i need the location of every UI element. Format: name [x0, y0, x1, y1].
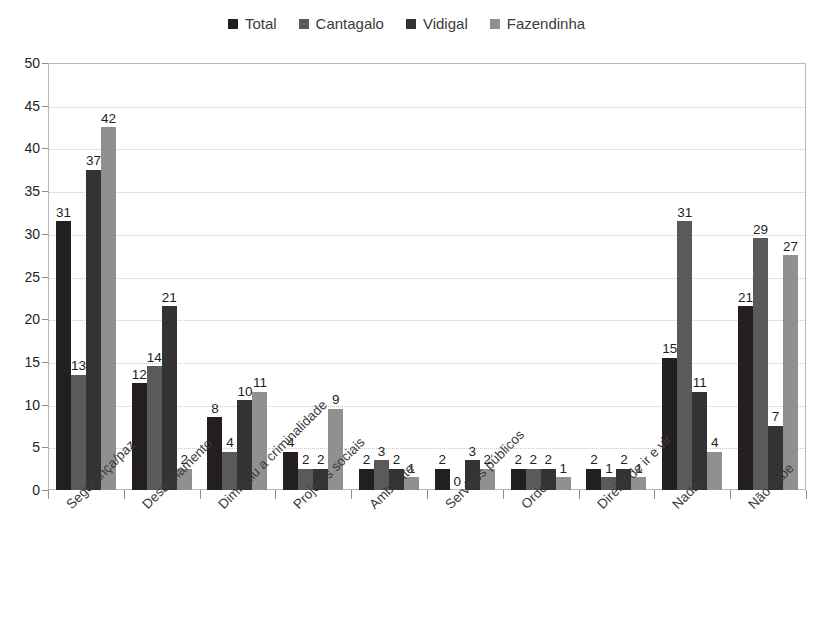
y-tick-label: 30 [6, 227, 40, 241]
bar-value-label: 1 [559, 462, 567, 476]
y-tick-label: 45 [6, 99, 40, 113]
bar-group: 841011 [200, 63, 276, 490]
bar-chart: TotalCantagaloVidigalFazendinha 05101520… [0, 0, 813, 620]
bar-slot: 2 [616, 63, 631, 490]
legend-swatch-icon [299, 19, 309, 29]
bar-slot: 11 [252, 63, 267, 490]
y-tick-label: 25 [6, 270, 40, 284]
bar-value-label: 21 [738, 291, 753, 305]
chart-legend: TotalCantagaloVidigalFazendinha [0, 16, 813, 31]
bar-value-label: 3 [378, 445, 386, 459]
category-separator-tick [200, 490, 201, 499]
bar-slot: 29 [753, 63, 768, 490]
bar-value-label: 2 [620, 453, 628, 467]
legend-swatch-icon [228, 19, 238, 29]
bar-value-label: 2 [544, 453, 552, 467]
bar-value-label: 4 [711, 436, 719, 450]
bar-value-label: 13 [71, 359, 86, 373]
bar[interactable] [132, 383, 147, 490]
bar-slot: 4 [707, 63, 722, 490]
bar[interactable] [692, 392, 707, 490]
bar-value-label: 15 [662, 342, 677, 356]
bar-group: 2321 [351, 63, 427, 490]
bar-slot: 1 [404, 63, 419, 490]
bar-value-label: 2 [514, 453, 522, 467]
bar[interactable] [162, 306, 177, 490]
bar[interactable] [556, 477, 571, 490]
bar-value-label: 1 [605, 462, 613, 476]
y-tick-mark [42, 234, 48, 235]
bar[interactable] [283, 452, 298, 490]
bar-value-label: 4 [226, 436, 234, 450]
category-separator-tick [806, 490, 807, 499]
legend-label: Vidigal [423, 16, 468, 31]
bar-slot: 7 [768, 63, 783, 490]
bar-slot: 10 [237, 63, 252, 490]
legend-item-vidigal[interactable]: Vidigal [406, 16, 468, 31]
bar[interactable] [56, 221, 71, 490]
bar-slot: 42 [101, 63, 116, 490]
bar-slot: 21 [738, 63, 753, 490]
legend-item-cantagalo[interactable]: Cantagalo [299, 16, 384, 31]
legend-item-fazendinha[interactable]: Fazendinha [490, 16, 585, 31]
bar[interactable] [707, 452, 722, 490]
x-axis-labels: Segurança/pazDesarmamentoDiminuiu a crim… [48, 490, 806, 620]
category-separator-tick [503, 490, 504, 499]
bar-value-label: 8 [211, 402, 219, 416]
bar-value-label: 14 [147, 351, 162, 365]
bar-slot: 2 [586, 63, 601, 490]
bar-group: 2129727 [730, 63, 806, 490]
bar-value-label: 7 [772, 410, 780, 424]
bar[interactable] [207, 417, 222, 490]
bar-slot: 2 [359, 63, 374, 490]
bar[interactable] [783, 255, 798, 490]
bar-group: 1214212 [124, 63, 200, 490]
y-tick-mark [42, 277, 48, 278]
bar-slot: 12 [132, 63, 147, 490]
bar-groups: 3113374212142128410114229232120322221212… [48, 63, 806, 490]
category-separator-tick [427, 490, 428, 499]
bar-value-label: 3 [469, 445, 477, 459]
bar[interactable] [586, 469, 601, 490]
bar-slot: 31 [56, 63, 71, 490]
bar-value-label: 2 [590, 453, 598, 467]
y-tick-label: 40 [6, 141, 40, 155]
y-axis: 05101520253035404550 [0, 63, 40, 490]
bar[interactable] [738, 306, 753, 490]
category-separator-tick [124, 490, 125, 499]
bar[interactable] [662, 358, 677, 490]
bar[interactable] [86, 170, 101, 490]
bar-value-label: 37 [86, 154, 101, 168]
bar-value-label: 2 [317, 453, 325, 467]
bar-slot: 2 [526, 63, 541, 490]
bar[interactable] [677, 221, 692, 490]
legend-label: Cantagalo [316, 16, 384, 31]
y-tick-mark [42, 63, 48, 64]
bar-slot: 11 [692, 63, 707, 490]
bar[interactable] [511, 469, 526, 490]
category-separator-tick [654, 490, 655, 499]
bar-value-label: 31 [56, 206, 71, 220]
bar-group: 31133742 [48, 63, 124, 490]
bar-slot: 2 [511, 63, 526, 490]
category-separator-tick [351, 490, 352, 499]
bar-value-label: 11 [253, 376, 267, 390]
y-tick-label: 35 [6, 184, 40, 198]
bar-group: 2221 [503, 63, 579, 490]
bar[interactable] [435, 469, 450, 490]
category-separator-tick [275, 490, 276, 499]
bar[interactable] [359, 469, 374, 490]
y-tick-label: 0 [6, 483, 40, 497]
bar[interactable] [71, 375, 86, 490]
bar-value-label: 12 [132, 368, 147, 382]
bar-value-label: 2 [393, 453, 401, 467]
bar[interactable] [101, 127, 116, 490]
bar-slot: 2 [435, 63, 450, 490]
bar-value-label: 31 [677, 206, 692, 220]
legend-item-total[interactable]: Total [228, 16, 277, 31]
y-tick-mark [42, 106, 48, 107]
bar[interactable] [147, 366, 162, 490]
y-tick-mark [42, 191, 48, 192]
y-tick-label: 50 [6, 56, 40, 70]
bar[interactable] [753, 238, 768, 490]
